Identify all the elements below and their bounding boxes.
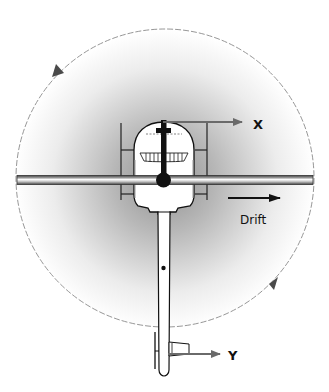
drift-label: Drift [240,213,267,227]
tail-boom [158,212,170,376]
x-axis-label: X [253,117,263,132]
helicopter-diagram: X Drift Y [0,0,329,392]
y-axis-label: Y [227,348,238,363]
rotor-hub [156,173,171,188]
center-of-gravity-dot [161,266,165,270]
